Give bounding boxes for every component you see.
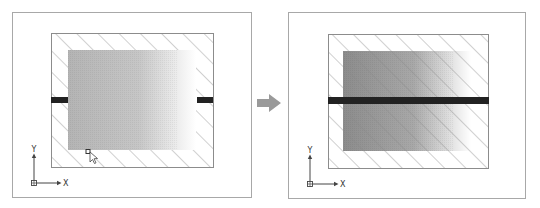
bar-right-stub [197, 97, 213, 103]
bar-left-stub [51, 97, 68, 103]
y-axis-label: Y [31, 145, 37, 154]
x-axis-label: X [340, 180, 346, 189]
y-axis-label: Y [307, 146, 313, 155]
diagram-canvas: Y X Y X [0, 0, 540, 208]
after-drawing: Y X [307, 35, 490, 190]
transition-arrow-icon [257, 94, 281, 112]
before-drawing: Y X [31, 34, 214, 189]
x-axis-label: X [63, 179, 69, 188]
bar-continuous [328, 97, 489, 104]
grip-handle[interactable] [86, 150, 90, 154]
